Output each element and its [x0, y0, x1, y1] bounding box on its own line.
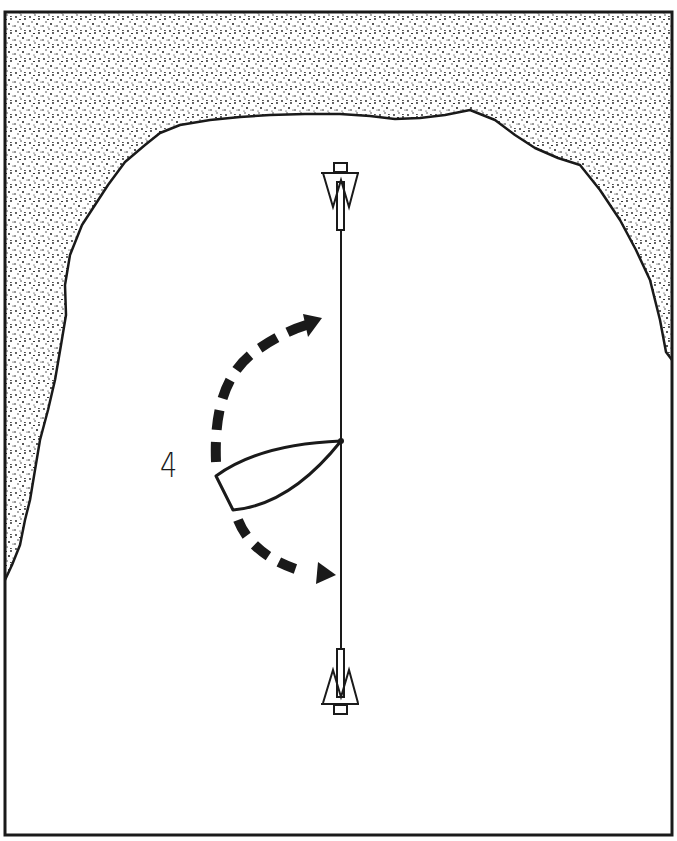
diagram-number-label: 4 [160, 448, 177, 482]
diagram-canvas: 4 [0, 0, 677, 841]
mooring-diagram [0, 0, 677, 841]
bow-mooring-point [338, 438, 344, 444]
